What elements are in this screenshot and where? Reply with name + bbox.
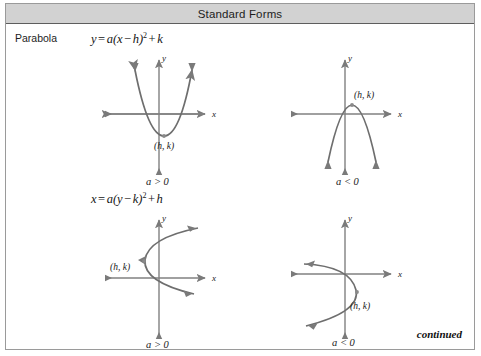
y-axis-label: y bbox=[161, 213, 166, 223]
formula-1-minus: − bbox=[123, 32, 133, 46]
y-axis bbox=[342, 220, 348, 339]
parabola-curve bbox=[304, 261, 356, 330]
formula-vertical-parabola: y=a(x−h)2+k bbox=[91, 31, 163, 47]
row-label-parabola: Parabola bbox=[15, 32, 57, 44]
x-axis-label: x bbox=[397, 269, 402, 279]
parabola-curve bbox=[131, 63, 195, 136]
table-header-band: Standard Forms bbox=[6, 4, 474, 24]
formula-1-body-k: k bbox=[157, 32, 163, 46]
x-axis bbox=[105, 111, 205, 117]
vertex-label: (h, k) bbox=[110, 262, 130, 273]
x-axis-label: x bbox=[211, 273, 216, 283]
table-title: Standard Forms bbox=[198, 8, 283, 20]
formula-1-body-h: h) bbox=[133, 32, 143, 46]
continued-label: continued bbox=[417, 328, 462, 340]
vertex-label: (h, k) bbox=[154, 141, 174, 152]
graph-parabola-opens-down: x y (h, k) a < 0 bbox=[288, 48, 428, 192]
vertex-label: (h, k) bbox=[354, 90, 374, 101]
formula-1-plus: + bbox=[147, 32, 157, 46]
formula-2-body-a: a(y bbox=[107, 192, 123, 206]
y-axis-label: y bbox=[347, 213, 352, 223]
formula-horizontal-parabola: x=a(y−k)2+h bbox=[91, 191, 163, 207]
graph-parabola-opens-up: x y (h, k) a > 0 bbox=[102, 48, 242, 192]
formula-2-body-h: h bbox=[156, 192, 162, 206]
formula-1-body-a: a(x bbox=[107, 32, 123, 46]
y-axis bbox=[342, 60, 348, 175]
formula-2-lhs: x bbox=[91, 192, 97, 206]
formula-2-body-k: k) bbox=[133, 192, 143, 206]
formula-2-equals: = bbox=[97, 192, 107, 206]
condition-label: a > 0 bbox=[146, 339, 170, 348]
figure-page: Standard Forms Parabola y=a(x−h)2+k x=a(… bbox=[0, 0, 481, 356]
vertex-point bbox=[142, 259, 146, 263]
formula-1-equals: = bbox=[97, 32, 107, 46]
standard-forms-table: Standard Forms Parabola y=a(x−h)2+k x=a(… bbox=[5, 3, 475, 350]
vertex-label: (h, k) bbox=[350, 301, 370, 312]
vertex-point bbox=[355, 290, 359, 294]
condition-label: a < 0 bbox=[332, 337, 356, 348]
y-axis bbox=[156, 60, 162, 175]
parabola-curve bbox=[138, 225, 198, 297]
y-axis-label: y bbox=[161, 53, 166, 63]
formula-1-lhs: y bbox=[91, 32, 97, 46]
graph-parabola-opens-left: x y (h, k) a < 0 bbox=[288, 208, 433, 354]
x-axis-label: x bbox=[211, 109, 216, 119]
formula-2-plus: + bbox=[146, 192, 156, 206]
condition-label: a < 0 bbox=[336, 176, 360, 187]
condition-label: a > 0 bbox=[146, 176, 170, 187]
x-axis-label: x bbox=[397, 109, 402, 119]
y-axis-label: y bbox=[347, 53, 352, 63]
formula-2-minus: − bbox=[123, 192, 133, 206]
vertex-point bbox=[350, 103, 354, 107]
vertex-point bbox=[162, 134, 166, 138]
graph-parabola-opens-right: x y (h, k) a > 0 bbox=[102, 208, 242, 352]
